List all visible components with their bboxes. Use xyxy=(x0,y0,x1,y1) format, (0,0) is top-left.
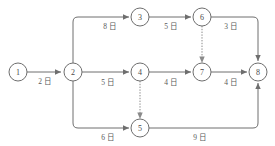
node-5[interactable]: 5 xyxy=(131,119,149,137)
node-5-label: 5 xyxy=(138,124,142,133)
edge-6-8-label: 3 日 xyxy=(224,22,238,31)
network-diagram: 2 日 8 日 5 日 6 日 5 日 xyxy=(0,0,275,146)
node-3-label: 3 xyxy=(138,13,142,22)
edge-2-5-label: 6 日 xyxy=(101,133,115,142)
edge-1-2: 2 日 xyxy=(27,69,61,85)
node-8[interactable]: 8 xyxy=(249,63,267,81)
edge-2-3-arrowhead xyxy=(123,14,129,19)
edge-5-8-label: 9 日 xyxy=(193,133,207,142)
edge-2-5-line xyxy=(73,81,129,128)
node-3[interactable]: 3 xyxy=(131,8,149,26)
edge-2-5: 6 日 xyxy=(73,81,129,142)
edge-1-2-label: 2 日 xyxy=(38,77,52,86)
edge-2-4: 5 日 xyxy=(82,69,129,86)
edge-2-4-label: 5 日 xyxy=(101,78,115,87)
edge-2-4-arrowhead xyxy=(123,69,129,74)
node-7[interactable]: 7 xyxy=(193,63,211,81)
node-2[interactable]: 2 xyxy=(64,63,82,81)
node-4-label: 4 xyxy=(138,68,142,77)
edge-4-7-arrowhead xyxy=(185,69,191,74)
edge-2-3: 8 日 xyxy=(73,14,129,63)
edge-4-7: 4 日 xyxy=(149,69,191,86)
edge-7-8-label: 4 日 xyxy=(224,78,238,87)
node-8-label: 8 xyxy=(256,68,260,77)
edge-2-3-line xyxy=(73,17,129,63)
edge-5-8-line xyxy=(149,83,258,128)
node-1-label: 1 xyxy=(16,68,20,77)
edge-2-3-label: 8 日 xyxy=(103,22,117,31)
node-7-label: 7 xyxy=(200,68,204,77)
edge-4-5-dummy xyxy=(137,81,142,119)
edge-3-6-arrowhead xyxy=(185,14,191,19)
edge-4-7-label: 4 日 xyxy=(164,78,178,87)
node-1[interactable]: 1 xyxy=(9,63,27,81)
network-diagram-canvas: 2 日 8 日 5 日 6 日 5 日 xyxy=(0,0,275,146)
node-6[interactable]: 6 xyxy=(193,8,211,26)
edge-1-2-arrowhead xyxy=(55,69,61,74)
edge-7-8-arrowhead xyxy=(241,69,247,74)
edge-6-8: 3 日 xyxy=(211,17,261,61)
edge-7-8: 4 日 xyxy=(211,69,247,86)
edge-3-6-label: 5 日 xyxy=(164,22,178,31)
edge-3-6: 5 日 xyxy=(149,14,191,30)
edge-5-8: 9 日 xyxy=(149,83,261,142)
edge-4-5-dummy-arrowhead xyxy=(137,113,142,120)
edge-2-5-arrowhead xyxy=(123,125,129,130)
edge-6-7-dummy-arrowhead xyxy=(199,57,204,64)
node-4[interactable]: 4 xyxy=(131,63,149,81)
edge-6-7-dummy xyxy=(199,26,204,63)
edge-5-8-arrowhead xyxy=(255,83,260,89)
node-6-label: 6 xyxy=(200,13,204,22)
edge-6-8-arrowhead xyxy=(255,55,260,61)
node-2-label: 2 xyxy=(71,68,75,77)
